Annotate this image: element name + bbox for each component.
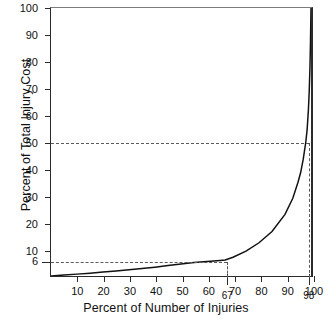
y-tick-label-80: 80 xyxy=(0,57,38,68)
y-tick-30 xyxy=(45,197,51,198)
x-tick-100 xyxy=(314,276,315,282)
y-tick-label-20: 20 xyxy=(0,219,38,230)
chart-figure: Percent of Total Injury Cost 10090807060… xyxy=(0,0,332,323)
y-tick-70 xyxy=(45,89,51,90)
x-tick-10 xyxy=(77,276,78,282)
x-tick-90 xyxy=(288,276,289,282)
y-tick-90 xyxy=(45,35,51,36)
x-tick-70 xyxy=(235,276,236,282)
y-tick-60 xyxy=(45,116,51,117)
x-tick-50 xyxy=(183,276,184,282)
reference-line-h-6 xyxy=(51,262,227,263)
curve-svg xyxy=(51,8,311,276)
y-tick-20 xyxy=(45,224,51,225)
y-tick-label-70: 70 xyxy=(0,84,38,95)
x-axis-title: Percent of Number of Injuries xyxy=(0,301,332,315)
y-tick-label-90: 90 xyxy=(0,30,38,41)
y-tick-40 xyxy=(45,170,51,171)
y-tick-label-6: 6 xyxy=(0,256,38,267)
cumulative-cost-curve xyxy=(51,8,311,276)
x-tick-80 xyxy=(261,276,262,282)
reference-line-h-50 xyxy=(51,143,309,144)
y-tick-label-50: 50 xyxy=(0,138,38,149)
y-tick-label-30: 30 xyxy=(0,192,38,203)
y-tick-80 xyxy=(45,62,51,63)
y-tick-100 xyxy=(45,8,51,9)
reference-line-v-98 xyxy=(309,143,310,278)
reference-line-v-67 xyxy=(227,262,228,278)
x-tick-40 xyxy=(156,276,157,282)
y-tick-10 xyxy=(45,251,51,252)
x-tick-label-100: 100 xyxy=(297,286,331,297)
x-tick-20 xyxy=(104,276,105,282)
x-tick-30 xyxy=(130,276,131,282)
plot-area: 1009080706050403020106102030405060677080… xyxy=(50,7,313,277)
y-tick-6 xyxy=(42,262,51,263)
y-tick-label-100: 100 xyxy=(0,3,38,14)
x-tick-60 xyxy=(209,276,210,282)
y-tick-label-40: 40 xyxy=(0,165,38,176)
y-tick-label-60: 60 xyxy=(0,111,38,122)
